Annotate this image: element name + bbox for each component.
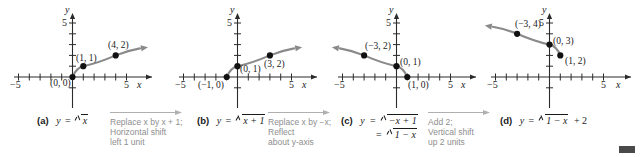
caption-c-radical-sign-2: 1 − x bbox=[387, 128, 417, 140]
point-label: (−3, 2) bbox=[365, 41, 391, 51]
transition-2-arrow-icon bbox=[268, 108, 330, 117]
point-label: (1, 0) bbox=[408, 80, 429, 90]
transition-3-arrow-icon bbox=[428, 108, 490, 117]
point-label: (0, 0) bbox=[50, 78, 71, 88]
panel-b-graph: −5 5 x 5 y (−1, 0) (0, 1) (3, 2) bbox=[165, 0, 325, 110]
caption-d: (d) y = 1 − x + 2 bbox=[500, 114, 587, 126]
caption-c-radicand: −x + 1 bbox=[387, 114, 417, 126]
data-point bbox=[514, 31, 520, 37]
transition-2-line2: Reflect bbox=[268, 127, 294, 138]
caption-a-eq: = bbox=[65, 115, 71, 126]
transition-1-line3: left 1 unit bbox=[110, 137, 145, 148]
caption-b-eq: = bbox=[226, 115, 232, 126]
y-axis-label: y bbox=[65, 4, 69, 15]
curve-sqrt-1-minus-x-plus-2 bbox=[493, 27, 561, 56]
caption-c-eq: = bbox=[370, 115, 376, 126]
transition-3-line2: Vertical shift bbox=[428, 127, 474, 138]
data-point bbox=[80, 63, 86, 69]
y-axis-label: y bbox=[542, 4, 546, 15]
x-tick-label-positive: 5 bbox=[448, 79, 453, 90]
x-axis-arrowhead bbox=[146, 74, 152, 79]
x-tick-label-negative: −5 bbox=[175, 79, 186, 90]
data-point bbox=[557, 52, 563, 58]
point-label: (0, 3) bbox=[553, 36, 574, 46]
point-label: (4, 2) bbox=[108, 40, 129, 50]
y-axis-arrowhead bbox=[70, 13, 75, 19]
y-axis-arrowhead bbox=[547, 13, 552, 19]
y-axis-arrowhead bbox=[235, 13, 240, 19]
caption-a: (a) y = x bbox=[37, 114, 88, 126]
caption-a-lhs: y bbox=[56, 115, 60, 126]
caption-d-radical-sign: 1 − x bbox=[539, 114, 569, 126]
caption-b-radicand: x + 1 bbox=[242, 114, 266, 126]
transition-1-line2: Horizontal shift bbox=[110, 127, 166, 138]
caption-b: (b) y = x + 1 bbox=[197, 114, 265, 126]
caption-d-eq: = bbox=[529, 115, 535, 126]
caption-b-radical-sign: x + 1 bbox=[236, 114, 266, 126]
caption-a-tag: (a) bbox=[37, 115, 49, 126]
point-label: (−3, 4) bbox=[515, 19, 541, 29]
point-label: (1, 1) bbox=[76, 53, 97, 63]
caption-d-tail: + 2 bbox=[574, 115, 587, 126]
data-point bbox=[361, 52, 367, 58]
x-axis-label: x bbox=[302, 79, 306, 90]
x-axis-label: x bbox=[616, 79, 620, 90]
transition-3-line1: Add 2; bbox=[428, 117, 453, 128]
caption-a-radicand: x bbox=[81, 114, 88, 126]
data-point bbox=[546, 42, 552, 48]
point-label: (1, 2) bbox=[565, 56, 586, 66]
y-tick-label: 5 bbox=[227, 17, 232, 28]
y-tick-label: 5 bbox=[386, 17, 391, 28]
caption-d-radicand: 1 − x bbox=[545, 114, 569, 126]
transition-1-arrow-icon bbox=[110, 108, 182, 117]
x-tick-label-negative: −5 bbox=[334, 79, 345, 90]
data-point bbox=[224, 74, 230, 80]
panel-d-graph: −5 5 x 5 y (−3, 4) (0, 3) (1, 2) bbox=[477, 0, 641, 110]
curve-sqrt-1-minus-x bbox=[340, 48, 408, 77]
x-axis-label: x bbox=[461, 79, 465, 90]
x-tick-label-negative: −5 bbox=[10, 79, 21, 90]
caption-c-radical-sign: −x + 1 bbox=[381, 114, 417, 126]
curve-arrowhead bbox=[141, 45, 149, 51]
curve-arrowhead bbox=[295, 45, 303, 51]
transition-3-line3: up 2 units bbox=[428, 137, 465, 148]
panel-c-graph: −5 5 x 5 y (−3, 2) (0, 1) (1, 0) bbox=[324, 0, 484, 110]
x-axis-label: x bbox=[137, 79, 141, 90]
transition-2-line1: Replace x by −x; bbox=[268, 117, 331, 128]
y-axis-label: y bbox=[230, 4, 234, 15]
data-point bbox=[393, 63, 399, 69]
transition-1-line1: Replace x by x + 1; bbox=[110, 117, 183, 128]
page-corner-mark bbox=[619, 146, 635, 153]
caption-c-tag: (c) bbox=[341, 115, 353, 126]
caption-c-eq-2: = bbox=[376, 129, 382, 140]
caption-c-second-line: = 1 − x bbox=[376, 128, 417, 140]
caption-d-lhs: y bbox=[520, 115, 524, 126]
point-label: (−1, 0) bbox=[198, 80, 224, 90]
panel-d-svg bbox=[477, 0, 641, 110]
x-tick-label-positive: 5 bbox=[124, 79, 129, 90]
y-tick-label: 5 bbox=[62, 17, 67, 28]
x-axis-arrowhead bbox=[311, 74, 317, 79]
data-point bbox=[267, 52, 273, 58]
x-axis-arrowhead bbox=[625, 74, 631, 79]
point-label: (3, 2) bbox=[264, 59, 285, 69]
curve-arrowhead bbox=[332, 45, 340, 51]
y-axis-arrowhead bbox=[394, 13, 399, 19]
point-label: (0, 1) bbox=[400, 57, 421, 67]
caption-d-tag: (d) bbox=[500, 115, 512, 126]
x-axis-arrowhead bbox=[470, 74, 476, 79]
caption-c-lhs: y bbox=[360, 115, 364, 126]
y-axis-label: y bbox=[389, 4, 393, 15]
caption-a-radical-sign: x bbox=[75, 114, 88, 126]
caption-c-radicand-2: 1 − x bbox=[393, 128, 417, 140]
panel-a-graph: −5 5 x 5 y (0, 0) (1, 1) (4, 2) bbox=[0, 0, 160, 110]
panel-c-svg bbox=[324, 0, 484, 110]
figure-transformations-of-sqrt: −5 5 x 5 y (0, 0) (1, 1) (4, 2) bbox=[0, 0, 641, 157]
x-tick-label-positive: 5 bbox=[601, 79, 606, 90]
x-tick-label-negative: −5 bbox=[487, 79, 498, 90]
caption-b-tag: (b) bbox=[197, 115, 209, 126]
curve-arrowhead bbox=[485, 24, 493, 30]
transition-2-line3: about y-axis bbox=[268, 137, 314, 148]
panel-b-svg bbox=[165, 0, 325, 110]
point-label: (0, 1) bbox=[240, 64, 261, 74]
